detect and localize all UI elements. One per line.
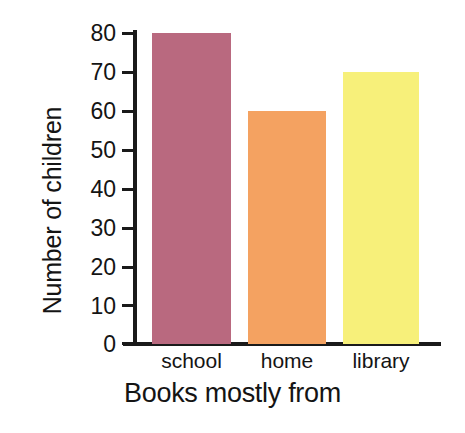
y-axis-line xyxy=(133,30,137,346)
bar-chart: Number of children 80 70 60 50 40 30 20 … xyxy=(0,0,465,433)
y-tick-label-10: 10 xyxy=(70,295,116,318)
y-tick-label-40-wrap: 40 xyxy=(66,178,116,201)
y-tick-label-10-wrap: 10 xyxy=(66,295,116,318)
y-tick-label-80-wrap: 80 xyxy=(66,22,116,45)
x-axis-title: Books mostly from xyxy=(0,378,465,409)
bar-home-fill xyxy=(248,111,326,344)
y-tick-label-60-wrap: 60 xyxy=(66,100,116,123)
y-tick-label-50: 50 xyxy=(70,139,116,162)
bar-school xyxy=(152,33,231,344)
y-tick-label-50-wrap: 50 xyxy=(66,139,116,162)
y-tick-label-20: 20 xyxy=(70,256,116,279)
bar-school-fill xyxy=(152,33,231,344)
y-axis-title: Number of children xyxy=(38,66,67,356)
bar-library xyxy=(343,72,419,344)
bar-home xyxy=(248,111,326,344)
y-tick-label-70-wrap: 70 xyxy=(66,61,116,84)
y-tick-label-30-wrap: 30 xyxy=(66,217,116,240)
y-tick-label-70: 70 xyxy=(70,61,116,84)
bar-library-fill xyxy=(343,72,419,344)
y-tick-label-30: 30 xyxy=(70,217,116,240)
y-tick-label-40: 40 xyxy=(70,178,116,201)
y-tick-label-80: 80 xyxy=(70,22,116,45)
x-category-label-school: school xyxy=(141,349,242,373)
y-tick-label-20-wrap: 20 xyxy=(66,256,116,279)
y-tick-label-0-wrap: 0 xyxy=(66,333,116,356)
y-tick-label-0: 0 xyxy=(70,333,116,356)
x-category-label-library: library xyxy=(331,349,431,373)
y-tick-label-60: 60 xyxy=(70,100,116,123)
x-category-label-home: home xyxy=(237,349,337,373)
